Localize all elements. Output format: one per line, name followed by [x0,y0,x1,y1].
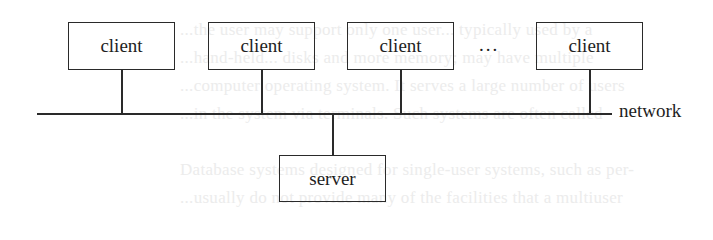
client-label: client [568,35,610,57]
client-connector-3 [400,69,402,114]
client-connector-2 [261,69,263,114]
ellipsis: ... [479,34,499,56]
client-label: client [379,35,421,57]
client-box-4: client [536,22,643,70]
client-connector-4 [589,69,591,114]
client-box-1: client [68,22,175,70]
client-label: client [240,35,282,57]
ghost-line: Database systems designed for single-use… [180,160,713,180]
ghost-line: ...computer operating system. It serves … [180,76,713,96]
ghost-line: ...usually do not provide many of the fa… [180,188,713,208]
server-connector [332,113,334,156]
client-box-2: client [208,22,315,70]
network-label: network [619,100,681,122]
client-label: client [100,35,142,57]
client-connector-1 [121,69,123,114]
client-box-3: client [347,22,454,70]
network-bus-line [37,113,612,115]
server-box: server [279,155,386,202]
server-label: server [309,168,355,190]
